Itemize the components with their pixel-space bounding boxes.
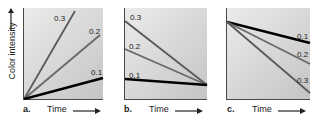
- panel-a-x-axis-label: Time: [47, 104, 67, 114]
- panel-c-plot: 0.1 0.2 0.3: [226, 8, 310, 100]
- panel-a-x-arrow-icon: [73, 108, 101, 114]
- series-label-0.3: 0.3: [297, 76, 308, 85]
- series-label-0.2: 0.2: [129, 42, 140, 51]
- series-label-0.2: 0.2: [89, 27, 100, 36]
- panel-b-label: b.: [124, 104, 132, 114]
- panel-b-x-arrow-icon: [175, 108, 203, 114]
- panel-b-x-axis-label: Time: [149, 104, 169, 114]
- y-axis-label: Color intensity: [7, 11, 17, 91]
- panel-a-plot: 0.3 0.2 0.1: [23, 8, 103, 100]
- panel-c-x-axis-label: Time: [252, 104, 272, 114]
- series-label-0.3: 0.3: [130, 13, 141, 22]
- series-label-0.2: 0.2: [297, 50, 308, 59]
- series-label-0.1: 0.1: [91, 68, 102, 77]
- series-label-0.1: 0.1: [129, 71, 140, 80]
- panel-a-label: a.: [23, 104, 31, 114]
- panel-b-plot: 0.3 0.2 0.1: [124, 8, 207, 100]
- series-label-0.1: 0.1: [297, 32, 308, 41]
- panel-c-label: c.: [227, 104, 235, 114]
- line-0.3: [24, 11, 75, 99]
- series-label-0.3: 0.3: [54, 14, 65, 23]
- panel-c-x-arrow-icon: [278, 108, 306, 114]
